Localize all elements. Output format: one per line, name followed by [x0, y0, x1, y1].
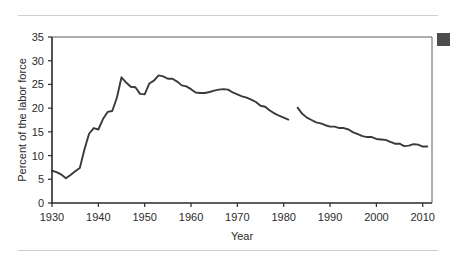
- y-tick-label: 35: [32, 31, 44, 43]
- axis-lines: [52, 37, 432, 203]
- x-tick-label: 1960: [179, 211, 203, 223]
- x-tick-label: 1950: [132, 211, 156, 223]
- x-axis-tick-labels: 193019401950196019701980199020002010: [40, 211, 435, 223]
- chart-plot-area: 05101520253035 1930194019501960197019801…: [0, 0, 456, 263]
- y-tick-label: 20: [32, 102, 44, 114]
- y-axis-title: Percent of the labor force: [16, 58, 28, 182]
- y-axis-tick-labels: 05101520253035: [32, 31, 44, 209]
- data-series-lines: [52, 75, 427, 178]
- figure-container: 05101520253035 1930194019501960197019801…: [0, 0, 456, 263]
- series-line-path: [52, 75, 288, 178]
- series-line-path: [298, 108, 428, 147]
- x-tick-label: 1970: [225, 211, 249, 223]
- y-tick-label: 25: [32, 78, 44, 90]
- y-tick-label: 30: [32, 55, 44, 67]
- x-tick-label: 1930: [40, 211, 64, 223]
- x-tick-label: 1940: [86, 211, 110, 223]
- corner-swatch-marker: [437, 33, 450, 46]
- x-tick-label: 1980: [271, 211, 295, 223]
- y-tick-label: 15: [32, 126, 44, 138]
- x-tick-label: 2010: [410, 211, 434, 223]
- line-chart-svg: 05101520253035 1930194019501960197019801…: [0, 0, 456, 263]
- y-tick-label: 10: [32, 150, 44, 162]
- x-axis-title: Year: [231, 230, 254, 242]
- y-tick-label: 0: [38, 197, 44, 209]
- x-tick-label: 2000: [364, 211, 388, 223]
- axis-tick-marks: [48, 37, 423, 207]
- y-tick-label: 5: [38, 173, 44, 185]
- x-tick-label: 1990: [318, 211, 342, 223]
